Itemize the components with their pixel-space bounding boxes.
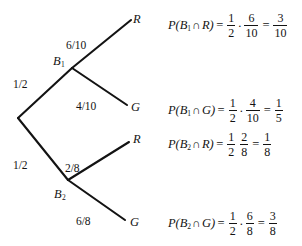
equation-p-b1-r: P(B1∩R) = 1 2 · 6 10 = 3 10 [168,12,289,39]
branch-root-to-b1 [18,68,72,118]
fraction-second: 6 10 [244,12,258,39]
equals-sign: = [214,18,226,33]
probability-tree-diagram: B1 B2 R G R G 1/2 1/2 6/10 4/10 2/8 6/8 … [0,0,302,246]
branch-prob-root-to-b1: 1/2 [13,79,27,91]
fraction-second: 6 8 [246,210,254,237]
branch-prob-b2-to-r: 2/8 [65,163,79,175]
fraction-second: 4 10 [246,97,260,124]
branch-prob-b1-to-g: 4/10 [76,101,96,113]
equals-sign: = [215,103,227,118]
outcome-label-g1: G [131,101,140,114]
equation-p-b2-g: P(B2∩G) = 1 2 · 6 8 = 3 8 [168,210,278,237]
branch-prob-root-to-b2: 1/2 [13,160,27,172]
fraction-result: 1 5 [275,97,283,124]
equation-lhs: P(B1∩R) [168,18,214,33]
branch-prob-b1-to-r: 6/10 [66,40,86,52]
outcome-label-r2: R [133,133,141,146]
multiply-dot: · [237,19,243,34]
equals-sign: = [214,137,226,152]
equation-lhs: P(B2∩G) [168,216,215,231]
node-label-b1: B1 [53,55,64,68]
equation-lhs: P(B2∩R) [168,137,214,152]
outcome-label-r1: R [133,13,141,26]
branch-prob-b2-to-g: 6/8 [76,216,90,228]
equation-p-b1-g: P(B1∩G) = 1 2 · 4 10 = 1 5 [168,97,284,124]
fraction-first: 1 2 [229,210,237,237]
fraction-first: 1 2 [227,131,235,158]
fraction-first: 1 2 [227,12,235,39]
equals-sign: = [215,216,227,231]
fraction-result: 3 8 [269,210,277,237]
equals-sign-2: = [261,103,273,118]
equals-sign-2: = [250,137,262,152]
fraction-result: 1 8 [263,131,271,158]
equals-sign-2: = [260,18,272,33]
fraction-result: 3 10 [273,12,287,39]
node-label-b2: B2 [54,188,65,201]
fraction-second: 2 8 [240,131,248,158]
equation-lhs: P(B1∩G) [168,103,215,118]
equation-p-b2-r: P(B2∩R) = 1 2 2 8 = 1 8 [168,131,273,158]
multiply-dot: · [238,217,244,232]
outcome-label-g2: G [130,216,139,229]
branch-b2-to-g [68,180,125,220]
equals-sign-2: = [255,216,267,231]
multiply-dot: · [238,104,244,119]
fraction-first: 1 2 [229,97,237,124]
